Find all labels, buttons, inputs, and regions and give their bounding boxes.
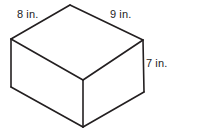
bottom-edge-left [11,87,83,127]
dimension-label-length: 9 in. [110,8,131,20]
dimension-label-width: 8 in. [17,8,38,20]
bottom-edge-right [83,92,144,127]
top-face-edge-left-front [11,39,83,80]
top-face-edge-right-rear [70,5,143,40]
right-vertical-edge [143,40,144,92]
rectangular-prism-figure: 8 in. 9 in. 7 in. [0,0,206,133]
dimension-label-height: 7 in. [146,57,167,69]
top-face-edge-right-front [83,40,143,80]
